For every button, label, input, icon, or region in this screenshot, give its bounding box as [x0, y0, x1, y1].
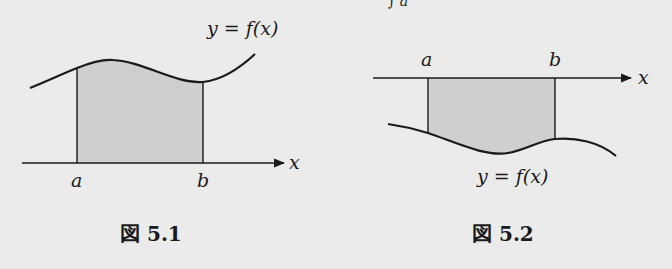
curve-label: y = f(x): [476, 165, 548, 187]
bound-label-a: a: [421, 48, 432, 70]
figure-caption: 図 5.1: [120, 222, 182, 246]
bound-label-b: b: [197, 169, 209, 191]
bound-label-a: a: [71, 169, 82, 191]
figure-5-1: x a b y = f(x) 図 5.1: [22, 17, 300, 246]
shaded-area-positive: [77, 60, 203, 163]
x-axis-label: x: [289, 151, 300, 173]
figure-caption: 図 5.2: [472, 222, 534, 246]
figure-5-2: x a b y = f(x) 図 5.2: [373, 48, 649, 246]
shaded-area-negative: [428, 78, 555, 154]
curve-label: y = f(x): [206, 17, 278, 39]
integral-fragment: ∫ a: [388, 0, 408, 9]
diagram-canvas: ∫ a x a b y = f(x) 図 5.1 x a b y = f(x) …: [0, 0, 672, 269]
x-axis-label: x: [638, 66, 649, 88]
bound-label-b: b: [549, 48, 561, 70]
